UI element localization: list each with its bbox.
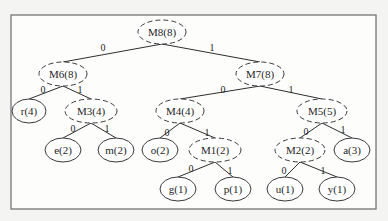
edge-bit-label: 0 <box>304 126 309 137</box>
internal-node-M1: M1(2) <box>189 138 241 162</box>
node-label: M3(4) <box>77 105 105 118</box>
leaf-node-g: g(1) <box>160 177 196 201</box>
internal-node-M2: M2(2) <box>275 138 325 162</box>
node-label: o(2) <box>151 144 170 157</box>
edge-bit-label: 1 <box>105 123 110 134</box>
node-label: r(4) <box>21 105 38 118</box>
edge-bit-label: 0 <box>71 123 76 134</box>
edge-bit-label: 1 <box>341 124 346 135</box>
edge-bit-label: 1 <box>321 165 326 176</box>
edge-bit-label: 0 <box>282 165 287 176</box>
internal-node-M6: M6(8) <box>39 62 87 86</box>
edge-bit-label: 1 <box>228 165 233 176</box>
node-label: M1(2) <box>201 144 229 157</box>
edge-bit-label: 1 <box>205 127 210 138</box>
leaf-node-e: e(2) <box>45 138 81 162</box>
node-label: y(1) <box>328 183 347 196</box>
huffman-tree-diagram: 0101010101010101 M8(8)M6(8)M7(8)r(4)M3(4… <box>0 0 388 221</box>
leaf-node-r: r(4) <box>12 99 46 123</box>
node-label: g(1) <box>169 183 188 196</box>
leaf-node-u: u(1) <box>267 177 303 201</box>
leaf-node-p: p(1) <box>215 177 251 201</box>
node-label: M2(2) <box>286 144 314 157</box>
node-label: M4(4) <box>166 105 194 118</box>
internal-node-M4: M4(4) <box>156 99 204 123</box>
leaf-node-a: a(3) <box>334 138 370 162</box>
node-label: M6(8) <box>49 68 77 81</box>
node-label: u(1) <box>276 183 295 196</box>
edge-bit-label: 0 <box>189 163 194 174</box>
leaf-node-o: o(2) <box>142 138 178 162</box>
edge-bit-label: 0 <box>41 84 46 95</box>
internal-node-M3: M3(4) <box>65 99 117 123</box>
internal-node-M5: M5(5) <box>297 99 347 123</box>
edge-bit-label: 1 <box>210 42 215 53</box>
node-label: M8(8) <box>148 26 176 39</box>
node-label: p(1) <box>224 183 243 196</box>
node-label: m(2) <box>105 144 127 157</box>
edge-bit-label: 1 <box>78 84 83 95</box>
edge-bit-label: 0 <box>101 42 106 53</box>
node-label: M7(8) <box>246 68 274 81</box>
node-label: e(2) <box>54 144 72 157</box>
node-label: a(3) <box>343 144 361 157</box>
edge-bit-label: 0 <box>165 127 170 138</box>
internal-node-M7: M7(8) <box>236 62 284 86</box>
node-label: M5(5) <box>308 105 336 118</box>
leaf-node-m: m(2) <box>98 138 134 162</box>
edge-bit-label: 0 <box>221 84 226 95</box>
leaf-node-y: y(1) <box>319 177 355 201</box>
internal-node-M8: M8(8) <box>138 20 186 44</box>
edge-bit-label: 1 <box>289 84 294 95</box>
